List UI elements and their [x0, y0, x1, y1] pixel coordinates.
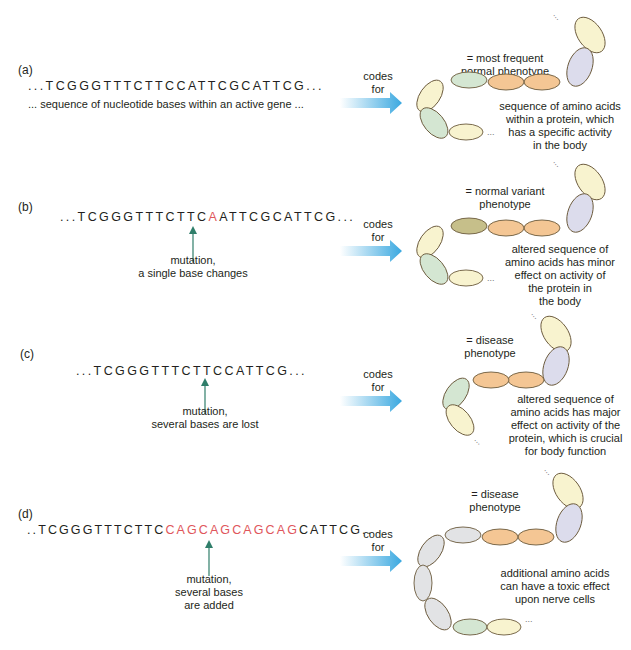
- protein-chain-d-icon: ... ...: [0, 0, 631, 650]
- description-line: upon nerve cells: [490, 593, 620, 606]
- description-line: can have a toxic effect: [490, 580, 620, 593]
- svg-text:...: ...: [542, 465, 554, 477]
- svg-text:...: ...: [525, 614, 533, 624]
- description-line: additional amino acids: [490, 567, 620, 580]
- protein-description: additional amino acids can have a toxic …: [490, 567, 620, 606]
